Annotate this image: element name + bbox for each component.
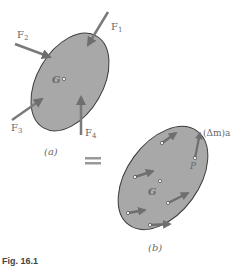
force-arrow-f2 xyxy=(15,44,50,57)
center-of-mass-label-b: G xyxy=(148,186,157,197)
panel-b-label: (b) xyxy=(148,242,162,253)
inertia-vector xyxy=(150,224,170,225)
particle-point xyxy=(133,175,136,178)
figure-caption: Fig. 16.1 xyxy=(2,256,38,266)
particle-point xyxy=(166,201,169,204)
panel-a-label: (a) xyxy=(44,146,58,157)
particle-point xyxy=(126,211,129,214)
point-p-label: P xyxy=(189,161,197,171)
center-of-mass-label-a: G xyxy=(52,74,61,85)
rigid-body-diagram: F1 F2 F3 F4 G (a) G P (Δm)a (b) Fig. xyxy=(0,0,247,267)
label-f2: F2 xyxy=(17,29,28,42)
center-of-mass-point-b xyxy=(158,179,161,182)
label-f1: F1 xyxy=(111,21,122,34)
label-f3: F3 xyxy=(11,122,22,135)
rigid-body-a xyxy=(15,20,125,145)
particle-point xyxy=(148,223,151,226)
equals-sign xyxy=(85,157,101,165)
center-of-mass-point-a xyxy=(62,77,65,80)
inertia-label: (Δm)a xyxy=(203,128,231,138)
particle-point xyxy=(160,141,163,144)
panel-b: G P (Δm)a (b) xyxy=(100,110,231,253)
particle-point-p xyxy=(193,156,196,159)
label-f4: F4 xyxy=(85,127,97,140)
panel-a: F1 F2 F3 F4 G (a) xyxy=(11,12,125,157)
